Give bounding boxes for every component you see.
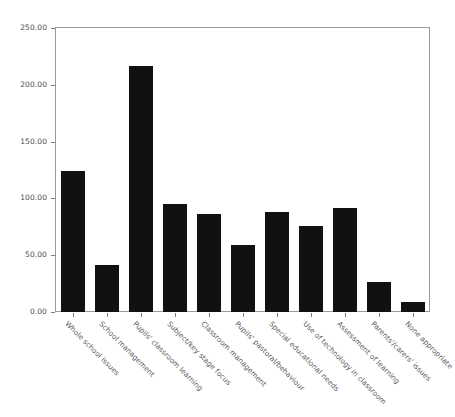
x-axis-tick-label: Assessment of learning [336, 320, 401, 385]
x-axis-tick-label: Subject/key stage focus [166, 320, 232, 386]
x-axis-tick-mark [175, 313, 176, 317]
x-axis-tick-mark [107, 313, 108, 317]
x-axis-tick-label: Special educational needs [268, 320, 341, 393]
x-axis-tick-label: Classroom management [200, 320, 268, 388]
x-axis-tick-mark [243, 313, 244, 317]
x-axis-tick-label: Pupils' classroom learning [132, 320, 204, 392]
x-axis-tick-mark [311, 313, 312, 317]
x-axis-tick-mark [277, 313, 278, 317]
x-axis-tick-mark [209, 313, 210, 317]
x-axis-tick-mark [345, 313, 346, 317]
x-axis-tick-mark [141, 313, 142, 317]
x-axis-tick-label: Pupils' pastoral/behaviour [234, 320, 306, 392]
x-axis-tick-mark [413, 313, 414, 317]
x-axis-tick-mark [379, 313, 380, 317]
x-axis-tick-label: Parents'/carers' issues [370, 320, 432, 382]
x-axis-tick-mark [73, 313, 74, 317]
